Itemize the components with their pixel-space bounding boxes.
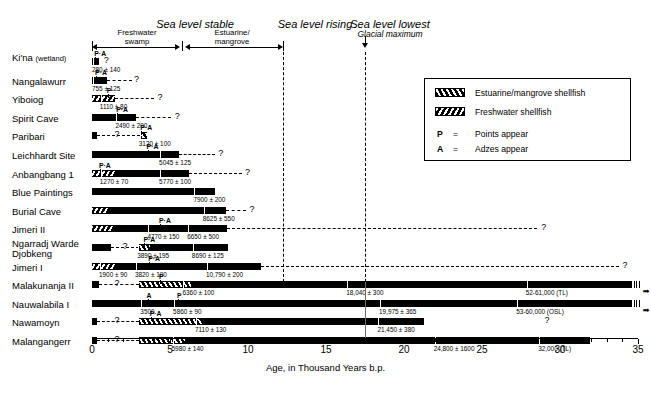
site-label-jimeri-i: Jimeri I xyxy=(12,263,90,273)
glacial-max-line-lower xyxy=(365,282,366,339)
bar-segment-solid xyxy=(92,188,215,195)
x-tick-minor xyxy=(342,339,343,342)
site-label-leichhardt-site: Leichhardt Site xyxy=(12,151,90,161)
artefact-marker-a: A xyxy=(147,292,152,299)
x-tick-minor xyxy=(139,339,140,342)
site-label-paribari: Paribari xyxy=(12,132,90,142)
bar-open-end-tick xyxy=(634,281,635,288)
bar-segment-solid xyxy=(92,114,136,121)
artefact-marker-pa: P·A xyxy=(99,162,111,169)
x-tick-minor xyxy=(264,339,265,342)
uncertainty-question-mark: ? xyxy=(158,93,163,102)
x-tick-minor xyxy=(310,339,311,342)
date-tick xyxy=(527,281,528,288)
date-tick xyxy=(378,318,379,325)
date-tick xyxy=(174,300,175,307)
legend-box: Estuarine/mangrove shellfish Freshwater … xyxy=(424,78,631,161)
site-label-line: Paribari xyxy=(12,131,45,142)
x-tick-minor xyxy=(154,339,155,342)
x-tick-minor xyxy=(544,339,545,342)
artefact-marker-pa: P·A xyxy=(147,143,159,150)
x-tick-label: 20 xyxy=(384,344,424,355)
x-tick-label: 25 xyxy=(462,344,502,355)
continues-arrow: ➡ xyxy=(643,288,650,295)
inferred-occupation-dashline xyxy=(189,173,242,174)
date-tick xyxy=(193,244,194,251)
site-label-ki-na-wetland: Ki'na (wetland) xyxy=(12,53,90,64)
site-label-line: Yiboiog xyxy=(12,94,43,105)
x-tick-minor xyxy=(622,339,623,342)
date-tick xyxy=(138,244,139,251)
bar-segment-freshwater xyxy=(92,170,115,177)
date-tick xyxy=(194,188,195,195)
site-label-line: Spirit Cave xyxy=(12,113,58,124)
inferred-occupation-dashline xyxy=(115,98,155,99)
date-label: 7110 ± 130 xyxy=(195,326,226,333)
bar-segment-solid xyxy=(92,318,97,325)
inferred-occupation-dashline xyxy=(226,210,246,211)
date-tick xyxy=(347,281,348,288)
uncertainty-question-mark: ? xyxy=(541,223,546,232)
date-tick xyxy=(188,225,189,232)
site-label-nangalawurr: Nangalawurr xyxy=(12,77,90,87)
bar-segment-solid xyxy=(202,318,424,325)
x-tick-minor xyxy=(232,339,233,342)
site-label-spirit-cave: Spirit Cave xyxy=(12,114,90,124)
artefact-marker-p: P xyxy=(177,292,182,299)
site-label-line: Jimeri I xyxy=(12,262,43,273)
bar-segment-solid xyxy=(92,77,107,84)
inferred-occupation-dashline xyxy=(179,154,216,155)
artefact-marker-tick xyxy=(148,150,149,154)
x-tick-minor xyxy=(451,339,452,342)
date-tick xyxy=(380,300,381,307)
x-tick-minor xyxy=(576,339,577,342)
bar-segment-freshwater xyxy=(92,263,115,270)
site-label-malakunanja-ii: Malakunanja II xyxy=(12,281,90,291)
bar-segment-estuarine xyxy=(139,318,202,325)
inferred-occupation-dashline xyxy=(261,266,619,267)
artefact-marker-tick xyxy=(108,94,109,98)
bar-open-end-tick xyxy=(639,281,640,288)
site-label-yiboiog: Yiboiog xyxy=(12,95,90,105)
bar-segment-freshwater xyxy=(92,207,108,214)
uncertainty-question-mark: ? xyxy=(134,75,139,84)
date-label: 1900 ± 90 xyxy=(99,271,127,278)
artefact-marker-pa: P·A xyxy=(95,69,107,76)
x-tick-minor xyxy=(498,339,499,342)
artefact-marker-tick xyxy=(160,224,161,228)
artefact-marker-tick xyxy=(151,317,152,321)
date-label: 10,790 ± 200 xyxy=(206,271,243,278)
x-tick-minor xyxy=(357,339,358,342)
x-axis-title: Age, in Thousand Years b.p. xyxy=(0,362,651,373)
continues-arrow: ➡ xyxy=(643,307,650,314)
bar-open-end-tick xyxy=(634,300,635,307)
date-tick xyxy=(148,225,149,232)
artefact-marker-pa: P·A xyxy=(150,310,162,317)
date-label: 52-61,000 (TL) xyxy=(526,289,568,296)
uncertainty-question-mark: ? xyxy=(218,149,223,158)
date-label: 7900 ± 200 xyxy=(193,196,225,203)
date-tick xyxy=(136,263,137,270)
site-label-ngarradj-warde-djobkeng: Ngarradj WardeDjobkeng xyxy=(12,239,90,259)
x-tick-label: 5 xyxy=(150,344,190,355)
artefact-marker-tick xyxy=(149,262,150,266)
inferred-occupation-dashline xyxy=(107,80,132,81)
date-label: 8690 ± 125 xyxy=(192,252,224,259)
x-tick-minor xyxy=(186,339,187,342)
bar-segment-freshwater xyxy=(92,225,113,232)
x-tick-minor xyxy=(466,339,467,342)
site-label-line: Nawamoyn xyxy=(12,317,60,328)
uncertainty-question-mark: ? xyxy=(250,205,255,214)
date-label: 1270 ± 70 xyxy=(100,178,128,185)
date-label: 5045 ± 125 xyxy=(159,159,191,166)
artefact-marker-p: P xyxy=(107,87,112,94)
site-label-nauwalabila-i: Nauwalabila I xyxy=(12,300,90,310)
x-tick-minor xyxy=(217,339,218,342)
legend-label-adzes: Adzes appear xyxy=(475,144,528,154)
bar-segment-solid xyxy=(150,244,229,251)
x-tick-minor xyxy=(201,339,202,342)
subzone-fw-l1: Freshwater xyxy=(92,28,182,37)
bar-segment-solid xyxy=(108,207,227,214)
site-label-line: Blue Paintings xyxy=(12,187,73,198)
uncertainty-question-mark: ? xyxy=(245,168,250,177)
